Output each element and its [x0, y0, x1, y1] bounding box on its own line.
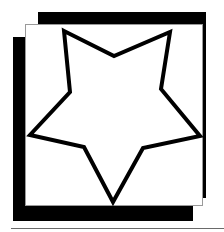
star-icon: [0, 0, 224, 232]
star-outline: [30, 31, 200, 202]
baseline-divider: [11, 228, 224, 229]
